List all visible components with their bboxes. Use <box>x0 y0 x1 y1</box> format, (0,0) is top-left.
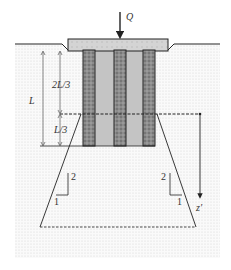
dimension-L-label: L <box>28 95 35 106</box>
pile-middle <box>114 50 126 146</box>
dimension-L3-label: L/3 <box>53 124 67 135</box>
slope-right-run: 1 <box>177 196 182 207</box>
pile-left <box>83 50 95 146</box>
slope-left-run: 1 <box>54 196 59 207</box>
pile-right <box>143 50 155 146</box>
pile-group-diagram: Q L 2L/3 L/3 2 1 2 1 z′ <box>0 0 231 270</box>
dimension-2L3-label: 2L/3 <box>52 79 70 90</box>
depth-label: z′ <box>195 202 203 213</box>
pile-cap <box>68 39 168 51</box>
slope-right-rise: 2 <box>161 171 166 182</box>
slope-left-rise: 2 <box>71 171 76 182</box>
load-label: Q <box>126 11 134 22</box>
